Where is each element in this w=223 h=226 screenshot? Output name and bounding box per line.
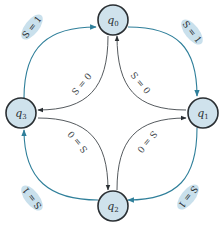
state-q0: q0	[98, 5, 128, 35]
label-q3-q0: S = 1	[17, 11, 47, 43]
svg-text:S = 0: S = 0	[70, 71, 94, 97]
label-q3-q2: S = 0	[66, 129, 90, 155]
label-q0-q3: S = 0	[70, 71, 94, 97]
state-q1: q1	[188, 98, 218, 128]
edge-q0-to-q3	[38, 36, 108, 110]
label-q2-q1: S = 0	[135, 129, 159, 155]
state-diagram: S = 1 S = 1 S = 1 S = 1 S = 0 S = 0 S = …	[0, 0, 223, 226]
edge-q3-to-q2	[38, 118, 108, 190]
edge-q1-to-q0	[117, 36, 186, 110]
edge-q2-to-q3	[24, 130, 98, 200]
edge-q2-to-q1	[117, 118, 186, 190]
label-q2-q3: S = 1	[17, 182, 47, 214]
svg-text:S = 0: S = 0	[135, 129, 159, 155]
state-q3: q3	[6, 98, 36, 128]
svg-text:S = 0: S = 0	[66, 129, 90, 155]
state-q2: q2	[98, 191, 128, 221]
